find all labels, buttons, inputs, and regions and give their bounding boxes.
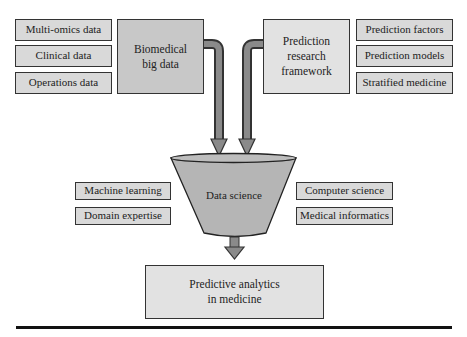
biomedical-big-data-box: Biomedical big data	[117, 19, 204, 94]
input-prediction-models: Prediction models	[356, 45, 453, 67]
prediction-research-framework-box: Prediction research framework	[263, 19, 350, 94]
input-label: Operations data	[29, 76, 98, 90]
framework-label-line1: Prediction	[281, 34, 331, 49]
discipline-domain-expertise: Domain expertise	[75, 207, 171, 225]
discipline-computer-science: Computer science	[296, 182, 393, 200]
discipline-label: Medical informatics	[300, 209, 389, 223]
input-clinical-data: Clinical data	[15, 45, 112, 67]
input-label: Prediction models	[365, 49, 445, 63]
output-label-line1: Predictive analytics	[189, 277, 279, 292]
framework-label-line3: framework	[281, 64, 331, 79]
discipline-medical-informatics: Medical informatics	[296, 207, 393, 225]
down-arrow	[225, 237, 244, 259]
input-prediction-factors: Prediction factors	[356, 19, 453, 41]
discipline-label: Computer science	[305, 184, 384, 198]
bottom-rule	[16, 326, 452, 329]
predictive-analytics-box: Predictive analytics in medicine	[145, 265, 324, 319]
pipe-arrow-right	[239, 44, 263, 156]
discipline-label: Domain expertise	[84, 209, 162, 223]
biomedical-label-line2: big data	[134, 57, 187, 72]
input-label: Clinical data	[36, 49, 92, 63]
discipline-label: Machine learning	[84, 184, 161, 198]
biomedical-label-line1: Biomedical	[134, 42, 187, 57]
pipe-arrow-left	[203, 44, 227, 156]
input-label: Prediction factors	[366, 23, 444, 37]
input-multi-omics-data: Multi-omics data	[15, 19, 112, 41]
funnel-label: Data science	[174, 189, 294, 201]
output-label-line2: in medicine	[189, 292, 279, 307]
input-stratified-medicine: Stratified medicine	[356, 72, 453, 94]
framework-label-line2: research	[281, 49, 331, 64]
input-label: Multi-omics data	[26, 23, 101, 37]
input-label: Stratified medicine	[363, 76, 447, 90]
discipline-machine-learning: Machine learning	[75, 182, 171, 200]
input-operations-data: Operations data	[15, 72, 112, 94]
